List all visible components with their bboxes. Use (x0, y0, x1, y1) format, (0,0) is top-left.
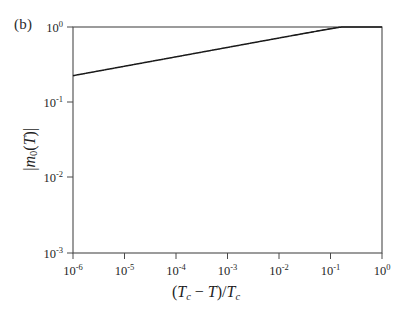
y-title-paren-open: ( (21, 145, 38, 150)
x-tick-exponent-4: -2 (282, 262, 289, 272)
figure-panel-b: (b) 10-6 10-5 (0, 0, 412, 320)
x-title-tc3-sub: c (235, 291, 240, 302)
x-axis-ticks (73, 253, 382, 259)
svg-text:100: 100 (46, 19, 63, 35)
x-tick-exponent-5: -1 (333, 262, 340, 272)
svg-text:100: 100 (374, 262, 391, 278)
x-title-minus: − (191, 283, 208, 300)
y-axis-ticks (67, 27, 73, 253)
y-title-m-sub: 0 (28, 151, 39, 156)
x-tick-mantissa-5: 10 (321, 264, 334, 278)
y-tick-exponent-2: -1 (56, 94, 63, 104)
y-tick-labels: 100 10-1 10-2 10-3 (43, 19, 63, 261)
x-tick-exponent-0: -6 (76, 262, 83, 272)
svg-text:10-2: 10-2 (43, 169, 63, 185)
svg-text:10-3: 10-3 (218, 262, 238, 278)
svg-text:10-1: 10-1 (321, 262, 341, 278)
svg-text:10-5: 10-5 (115, 262, 135, 278)
y-title-t-symbol: T (21, 136, 38, 145)
y-axis-title: |m0(T)| (21, 89, 40, 209)
y-tick-exponent-3: 0 (59, 19, 63, 29)
y-title-paren-close: ) (21, 131, 38, 136)
y-tick-mantissa-2: 10 (43, 96, 56, 110)
x-tick-mantissa-6: 10 (374, 264, 387, 278)
x-title-close-slash: )/ (217, 283, 227, 300)
y-tick-exponent-0: -3 (56, 245, 63, 255)
y-title-m-symbol: m (21, 156, 38, 168)
x-title-tc1-symbol: T (177, 283, 186, 300)
x-tick-mantissa-0: 10 (63, 264, 76, 278)
x-tick-labels: 10-6 10-5 10-4 10-3 10-2 10-1 100 (63, 262, 390, 278)
svg-text:10-3: 10-3 (43, 245, 63, 261)
svg-text:10-6: 10-6 (63, 262, 83, 278)
y-title-bar-open: | (21, 168, 38, 171)
y-tick-exponent-1: -2 (56, 169, 63, 179)
x-tick-exponent-6: 0 (386, 262, 390, 272)
svg-text:10-2: 10-2 (269, 262, 289, 278)
y-tick-mantissa-1: 10 (43, 171, 56, 185)
x-tick-mantissa-2: 10 (166, 264, 179, 278)
x-tick-mantissa-4: 10 (269, 264, 282, 278)
x-tick-exponent-2: -4 (179, 262, 187, 272)
x-axis-title: (Tc − T)/Tc (0, 283, 412, 302)
x-tick-exponent-3: -3 (230, 262, 237, 272)
y-title-bar-close: | (21, 128, 38, 131)
y-tick-mantissa-3: 10 (46, 21, 59, 35)
plot-frame (73, 27, 382, 253)
x-title-t2-symbol: T (208, 283, 217, 300)
x-tick-exponent-1: -5 (127, 262, 134, 272)
log-log-plot: 10-6 10-5 10-4 10-3 10-2 10-1 100 (0, 0, 412, 320)
svg-text:10-4: 10-4 (166, 262, 186, 278)
x-tick-mantissa-3: 10 (218, 264, 231, 278)
x-tick-mantissa-1: 10 (115, 264, 128, 278)
svg-text:10-1: 10-1 (43, 94, 63, 110)
y-tick-mantissa-0: 10 (43, 247, 56, 261)
